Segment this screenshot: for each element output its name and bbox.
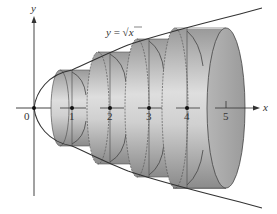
disk-4 xyxy=(162,28,245,189)
x-axis-label: x xyxy=(262,101,268,113)
y-axis-label: y xyxy=(30,2,36,14)
solid-of-revolution-diagram: y xyxy=(0,0,277,214)
x-tick-3: 3 xyxy=(146,110,152,122)
curve-label: y = √x xyxy=(105,26,142,38)
x-tick-5: 5 xyxy=(223,110,229,122)
x-tick-1: 1 xyxy=(69,110,75,122)
x-axis-arrow-icon xyxy=(253,106,260,111)
origin-label: 0 xyxy=(24,110,30,122)
svg-text:y = √x: y = √x xyxy=(105,26,134,38)
x-tick-2: 2 xyxy=(107,110,113,122)
origin-point xyxy=(32,106,36,110)
x-tick-4: 4 xyxy=(184,110,190,122)
y-axis-arrow-icon xyxy=(32,16,37,23)
